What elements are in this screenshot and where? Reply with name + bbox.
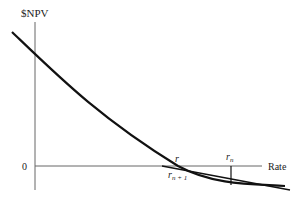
y-axis-label: $NPV: [21, 7, 49, 19]
rn1-sub: n + 1: [172, 174, 187, 182]
root-label: r: [175, 153, 179, 164]
rn1-label: rn + 1: [168, 169, 187, 182]
rn-sub: n: [230, 156, 234, 164]
rn-label: rn: [226, 151, 234, 164]
x-axis-label: Rate: [268, 161, 287, 172]
origin-label: 0: [22, 161, 27, 172]
newton-method-diagram: $NPV Rate 0 r rn rn + 1: [0, 0, 301, 200]
npv-curve: [12, 32, 285, 186]
